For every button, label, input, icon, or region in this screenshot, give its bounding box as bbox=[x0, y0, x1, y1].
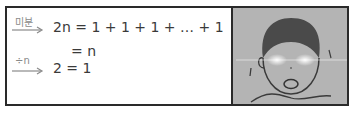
right-arrow-icon bbox=[12, 26, 44, 34]
divide-arrow: ÷n bbox=[12, 59, 44, 75]
reaction-panel bbox=[233, 8, 347, 104]
arrow-label-divide: ÷n bbox=[15, 55, 30, 66]
math-panel: 미분 2n = 1 + 1 + 1 + … + 1 = n ÷n 2 = 1 bbox=[7, 8, 231, 104]
equation-line-2: = n bbox=[71, 43, 96, 59]
equation-line-1: 2n = 1 + 1 + 1 + … + 1 bbox=[53, 19, 224, 35]
equation-line-3: 2 = 1 bbox=[53, 60, 91, 76]
differentiate-arrow: 미분 bbox=[12, 18, 44, 34]
right-arrow-icon bbox=[12, 67, 44, 75]
shocked-face-illustration bbox=[233, 8, 347, 104]
comic-frame: 미분 2n = 1 + 1 + 1 + … + 1 = n ÷n 2 = 1 bbox=[5, 6, 349, 106]
